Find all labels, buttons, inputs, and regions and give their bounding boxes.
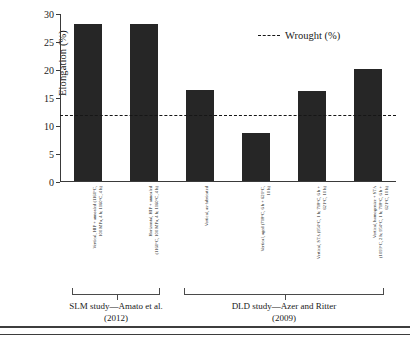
bar — [354, 69, 382, 181]
legend-label-wrought: Wrought (%) — [285, 30, 340, 41]
y-tick-mark — [56, 154, 60, 155]
bar — [186, 90, 214, 181]
group-bracket-dld — [184, 288, 384, 295]
x-category-label: Vertical, HIP + annealed (1160°C, 100 MP… — [92, 186, 104, 290]
x-category-label: Horizontal, HIP + annealed (1160°C, 100 … — [148, 186, 160, 290]
y-axis-line — [60, 14, 61, 182]
bar — [74, 24, 102, 181]
y-tick-mark — [56, 42, 60, 43]
bar — [130, 24, 158, 181]
y-tick-mark — [56, 126, 60, 127]
y-tick-label: 10 — [30, 121, 54, 132]
page-divider-top — [0, 326, 410, 328]
x-category-label: Vertical, aged (718°C, 6 h + 621°C, 10 h… — [260, 186, 272, 290]
y-tick-label: 15 — [30, 93, 54, 104]
group-bracket-slm — [72, 288, 160, 295]
bar — [298, 91, 326, 181]
x-category-label: Vertical, as-fabricated — [204, 186, 210, 290]
y-tick-label: 30 — [30, 9, 54, 20]
elongation-bar-chart: Elongation (%) 051015202530 Wrought (%) … — [0, 0, 410, 339]
y-tick-label: 5 — [30, 149, 54, 160]
x-category-label: Vertical, STA (954°C, 1 h; 718°C, 6 h + … — [316, 186, 328, 290]
bar — [242, 133, 270, 181]
group-label-dld: DLD study—Azer and Ritter (2009) — [154, 300, 410, 324]
y-tick-label: 20 — [30, 65, 54, 76]
x-axis-line — [60, 181, 396, 182]
page-divider-bottom — [0, 334, 410, 335]
wrought-reference-line — [60, 115, 396, 116]
x-category-label: Vertical, homogenize + STA (1093°C, 2 h;… — [372, 186, 390, 290]
y-tick-mark — [56, 14, 60, 15]
legend: Wrought (%) — [258, 30, 340, 41]
y-tick-label: 0 — [30, 177, 54, 188]
y-tick-mark — [56, 98, 60, 99]
y-tick-mark — [56, 182, 60, 183]
y-tick-label: 25 — [30, 37, 54, 48]
y-tick-mark — [56, 70, 60, 71]
plot-area: 051015202530 — [60, 14, 396, 182]
dashed-line-icon — [258, 35, 280, 36]
